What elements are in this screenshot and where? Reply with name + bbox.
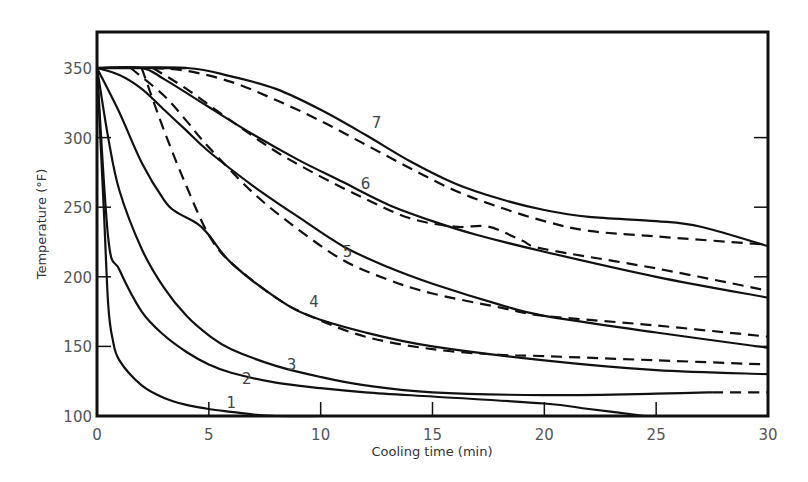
curve-5-dashed [131, 68, 768, 337]
cooling-curves-chart: 051015202530100150200250300350 1234567 C… [0, 0, 808, 482]
curve-label-7: 7 [372, 114, 382, 132]
curve-label-1: 1 [226, 394, 236, 412]
curve-5-solid [97, 68, 768, 348]
y-tick-label: 300 [63, 130, 92, 148]
x-axis-title: Cooling time (min) [372, 444, 493, 459]
y-tick-label: 350 [63, 60, 92, 78]
x-tick-label: 15 [423, 426, 442, 444]
curve-label-4: 4 [309, 293, 319, 311]
axis-ticks: 051015202530100150200250300350 [63, 60, 777, 444]
x-tick-label: 20 [535, 426, 554, 444]
y-tick-label: 200 [63, 269, 92, 287]
y-tick-label: 250 [63, 199, 92, 217]
y-tick-label: 150 [63, 338, 92, 356]
y-axis-title: Temperature (°F) [34, 169, 49, 281]
curve-7-solid [97, 67, 768, 246]
y-tick-label: 100 [63, 408, 92, 426]
curve-7-dashed [153, 68, 768, 245]
x-tick-label: 30 [758, 426, 777, 444]
curve-label-3: 3 [287, 356, 297, 374]
plot-curves [97, 67, 768, 416]
x-tick-label: 5 [204, 426, 214, 444]
curve-labels: 1234567 [226, 114, 381, 412]
curve-label-2: 2 [242, 370, 252, 388]
curve-label-6: 6 [361, 175, 371, 193]
curve-3-solid [97, 68, 712, 395]
x-tick-label: 10 [311, 426, 330, 444]
curve-label-5: 5 [343, 243, 353, 261]
x-tick-label: 0 [92, 426, 102, 444]
curve-4-dashed [142, 68, 768, 365]
x-tick-label: 25 [647, 426, 666, 444]
curve-6-solid [97, 67, 768, 298]
